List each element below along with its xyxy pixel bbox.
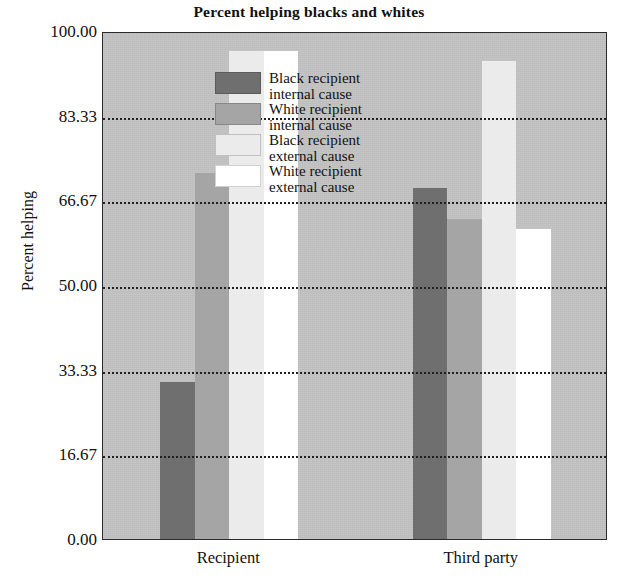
legend-item-3: White recipient external cause [215, 164, 427, 195]
chart-title: Percent helping blacks and whites [0, 3, 618, 21]
legend-swatch-icon-2 [215, 134, 261, 156]
x-tick-label-third-party: Third party [443, 548, 518, 568]
legend-item-2: Black recipient external cause [215, 133, 427, 164]
legend-swatch-icon-3 [215, 165, 261, 187]
y-tick-label-16.67: 16.67 [6, 445, 102, 465]
gridline-16.67 [103, 456, 606, 458]
gridline-50.00 [103, 287, 606, 289]
plot-area: Black recipient internal causeWhite reci… [102, 32, 607, 540]
bar-third-party-series-0 [413, 188, 448, 539]
y-tick-label-100.00: 100.00 [6, 22, 102, 42]
bar-third-party-series-2 [482, 61, 517, 539]
legend-label-1: White recipient internal cause [269, 102, 362, 133]
gridline-66.67 [103, 202, 606, 204]
y-tick-label-66.67: 66.67 [6, 191, 102, 211]
y-axis-title: Percent helping [19, 151, 37, 331]
legend-item-0: Black recipient internal cause [215, 71, 427, 102]
x-tick-label-recipient: Recipient [197, 548, 260, 568]
y-tick-label-0.00: 0.00 [6, 530, 102, 550]
bar-recipient-series-1 [195, 173, 230, 539]
legend-swatch-icon-0 [215, 72, 261, 94]
legend-label-2: Black recipient external cause [269, 133, 360, 164]
legend-item-1: White recipient internal cause [215, 102, 427, 133]
bar-third-party-series-1 [447, 219, 482, 539]
legend: Black recipient internal causeWhite reci… [215, 71, 427, 195]
bar-third-party-series-3 [516, 229, 551, 539]
legend-label-0: Black recipient internal cause [269, 71, 360, 102]
bar-recipient-series-0 [160, 382, 195, 539]
y-tick-label-83.33: 83.33 [6, 107, 102, 127]
gridline-33.33 [103, 372, 606, 374]
legend-label-3: White recipient external cause [269, 164, 362, 195]
y-tick-label-33.33: 33.33 [6, 361, 102, 381]
y-tick-label-50.00: 50.00 [6, 276, 102, 296]
chart-root: Percent helping blacks and whites Percen… [0, 0, 618, 581]
legend-swatch-icon-1 [215, 103, 261, 125]
